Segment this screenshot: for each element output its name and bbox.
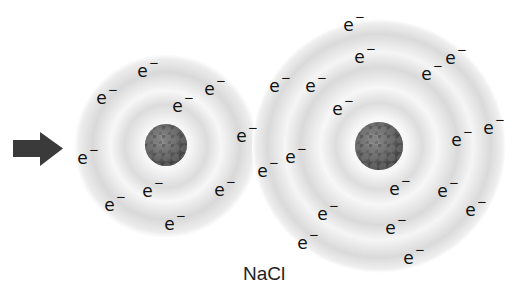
compound-label: NaCl <box>243 263 285 285</box>
chlorine-atom-electron: e− <box>285 146 307 166</box>
sodium-atom-electron: e− <box>164 213 186 233</box>
sodium-atom-electron: e− <box>96 87 118 107</box>
chlorine-atom-electron: e− <box>297 232 319 252</box>
chlorine-atom-electron: e− <box>257 160 279 180</box>
chlorine-atom-electron: e− <box>437 180 459 200</box>
chlorine-atom-electron: e− <box>421 63 443 83</box>
sodium-atom-electron: e− <box>137 60 159 80</box>
sodium-atom-electron: e− <box>214 179 236 199</box>
sodium-atom-electron: e− <box>104 194 126 214</box>
chlorine-atom-electron: e− <box>465 199 487 219</box>
sodium-atom-electron: e− <box>142 180 164 200</box>
nacl-diagram: e−e−e−e−e−e−e−e−e−e−e−e−e−e−e−e−e−e−e−e−… <box>0 0 529 305</box>
sodium-atom-electron: e− <box>236 125 258 145</box>
chlorine-atom-electron: e− <box>451 129 473 149</box>
chlorine-atom-electron: e− <box>354 46 376 66</box>
chlorine-atom-electron: e− <box>343 14 365 34</box>
sodium-atom-electron: e− <box>172 95 194 115</box>
arrow-right-icon <box>13 132 63 166</box>
chlorine-atom-electron: e− <box>385 217 407 237</box>
chlorine-atom-electron: e− <box>403 247 425 267</box>
sodium-atom-electron: e− <box>204 78 226 98</box>
chlorine-nucleus-icon <box>355 122 403 170</box>
chlorine-atom-electron: e− <box>317 203 339 223</box>
chlorine-atom-electron: e− <box>332 98 354 118</box>
chlorine-atom-electron: e− <box>305 75 327 95</box>
chlorine-atom-electron: e− <box>483 117 505 137</box>
chlorine-atom-electron: e− <box>389 178 411 198</box>
chlorine-atom-electron: e− <box>445 47 467 67</box>
sodium-nucleus-icon <box>145 124 187 166</box>
sodium-atom-electron: e− <box>77 147 99 167</box>
chlorine-atom-electron: e− <box>269 75 291 95</box>
